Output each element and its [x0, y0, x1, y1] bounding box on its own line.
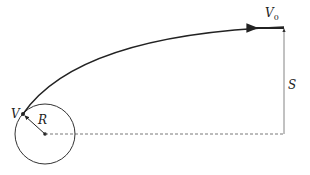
- label-v0: V0: [265, 6, 279, 22]
- label-r: R: [37, 113, 47, 127]
- label-s: S: [288, 78, 296, 92]
- trajectory-diagram: V0 V R S: [0, 0, 310, 175]
- diagram-canvas: V0 V R S: [0, 0, 310, 175]
- label-v: V: [11, 107, 21, 121]
- impact-point: [21, 112, 25, 116]
- trajectory-curve: [23, 27, 284, 114]
